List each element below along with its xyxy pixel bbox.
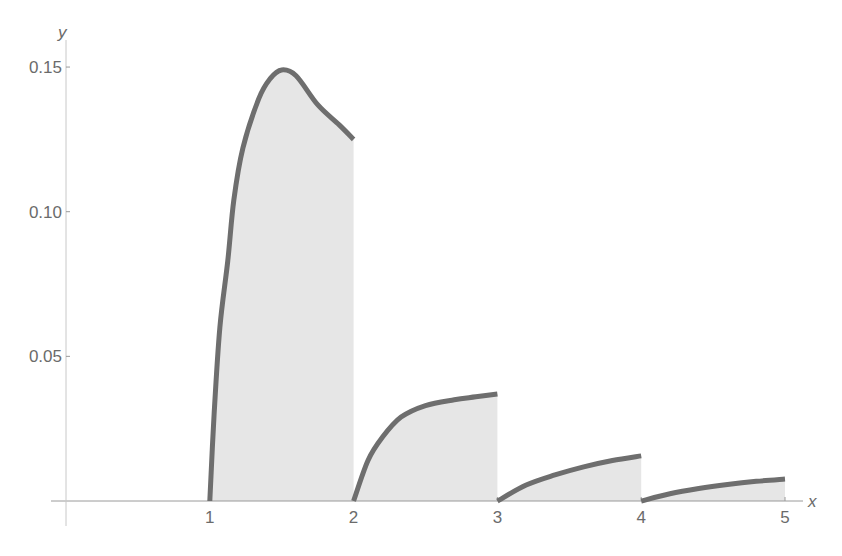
x-tick-label: 5 (780, 508, 789, 527)
area-fills (210, 70, 785, 501)
x-tick-label: 3 (493, 508, 502, 527)
x-tick-label: 1 (205, 508, 214, 527)
chart-canvas: 123450.050.100.15 y x (0, 0, 842, 556)
x-tick-label: 4 (636, 508, 645, 527)
y-tick-label: 0.05 (29, 347, 62, 366)
y-tick-label: 0.15 (29, 58, 62, 77)
x-tick-label: 2 (349, 508, 358, 527)
x-axis-label: x (807, 492, 817, 511)
y-tick-label: 0.10 (29, 203, 62, 222)
segment-3-area (497, 456, 641, 501)
segment-1-area (210, 70, 354, 501)
y-axis-label: y (57, 23, 68, 42)
